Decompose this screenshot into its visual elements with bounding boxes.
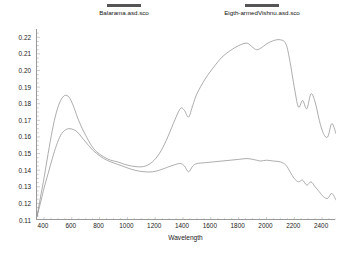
y-axis-tick-label: 0.15 [19, 150, 34, 157]
y-axis-tick-label: 0.16 [19, 133, 34, 140]
x-axis-tick-label: 2000 [258, 222, 272, 230]
y-axis-tick-label: 0.20 [19, 67, 34, 74]
x-axis-tick-label: 1800 [231, 222, 245, 230]
x-axis-tick-label: 1400 [175, 222, 189, 230]
y-axis-tick-label: 0.11 [19, 217, 34, 224]
series-line-0 [37, 40, 336, 217]
legend-swatch-icon [107, 4, 141, 7]
legend-label: Eigth-armedVishnu.asd.sco [196, 9, 328, 16]
y-axis-tick-label: 0.21 [19, 50, 34, 57]
legend-swatch-icon [245, 4, 279, 7]
legend-entry-vishnu: Eigth-armedVishnu.asd.sco [196, 4, 328, 16]
y-axis-tick-label: 0.13 [19, 183, 34, 190]
y-axis-tick-label: 0.12 [19, 200, 34, 207]
x-axis-tick-label: 2200 [286, 222, 300, 230]
x-axis-tick-label: 2400 [314, 222, 328, 230]
y-axis-tick-label: 0.19 [19, 84, 34, 91]
x-axis-tick-label: 600 [65, 222, 76, 230]
legend-label: Balarama.asd.sco [64, 9, 184, 16]
x-axis-tick-label: 400 [38, 222, 49, 230]
x-axis-tick-label: 1200 [147, 222, 161, 230]
y-axis-tick-labels: 0.110.120.130.140.150.160.170.180.190.20… [0, 29, 34, 220]
x-axis-tick-label: 1600 [203, 222, 217, 230]
x-axis-title: Wavelength [36, 234, 335, 241]
series-line-1 [37, 129, 336, 217]
plot-area [36, 29, 335, 220]
y-axis-tick-label: 0.22 [19, 34, 34, 41]
y-axis-tick-label: 0.17 [19, 117, 34, 124]
x-axis-tick-label: 800 [93, 222, 104, 230]
x-axis-tick-label: 1000 [119, 222, 133, 230]
chart-legend: Balarama.asd.sco Eigth-armedVishnu.asd.s… [0, 0, 342, 24]
y-axis-tick-label: 0.14 [19, 167, 34, 174]
y-axis-tick-label: 0.18 [19, 100, 34, 107]
spectral-curves [37, 29, 336, 220]
legend-entry-balarama: Balarama.asd.sco [64, 4, 184, 16]
chart-container: Balarama.asd.sco Eigth-armedVishnu.asd.s… [0, 0, 342, 254]
x-axis-tick-labels: 4006008001000120014001600180020002200240… [36, 222, 335, 234]
